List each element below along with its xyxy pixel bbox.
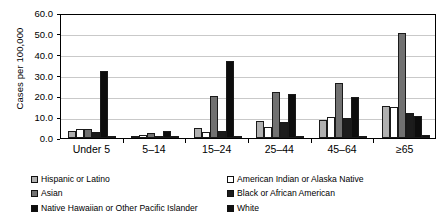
x-axis-tick-label: 45–64	[311, 143, 374, 156]
y-axis-tick-label: 40.0	[7, 51, 53, 61]
chart-legend: Hispanic or LatinoAsianNative Hawaiian o…	[31, 172, 431, 218]
y-axis-tick-label: 50.0	[7, 30, 53, 40]
bar	[406, 113, 414, 138]
bar-group	[374, 15, 437, 138]
bar	[108, 136, 116, 138]
bar-group-bars	[61, 15, 124, 138]
bar	[100, 71, 108, 138]
bar	[335, 83, 343, 138]
bar	[210, 96, 218, 138]
legend-swatch-icon	[31, 205, 38, 212]
legend-swatch-icon	[31, 176, 38, 183]
bar	[218, 131, 226, 138]
y-axis-tick-mark	[57, 139, 60, 140]
legend-item[interactable]: American Indian or Alaska Native	[227, 172, 364, 187]
y-axis-tick-mark	[57, 34, 60, 35]
bar	[327, 117, 335, 138]
legend-item[interactable]: Hispanic or Latino	[31, 172, 198, 187]
bar	[343, 118, 351, 138]
x-axis-tick-label: ≥65	[373, 143, 436, 156]
bar	[147, 133, 155, 138]
x-axis-tick-label: 25–44	[248, 143, 311, 156]
legend-item-label: Native Hawaiian or Other Pacific Islande…	[41, 204, 198, 213]
bar	[351, 97, 359, 138]
bar-group	[186, 15, 249, 138]
bar	[296, 136, 304, 138]
bar	[68, 131, 76, 138]
y-axis-tick-mark	[57, 76, 60, 77]
bar	[272, 92, 280, 138]
x-axis-tick-mark	[311, 139, 312, 143]
x-axis-tick-label: 5–14	[123, 143, 186, 156]
bar-group-bars	[124, 15, 187, 138]
legend-item[interactable]: White	[227, 201, 364, 216]
bar-group	[249, 15, 312, 138]
bar-chart-figure: Cases per 100,000 0.010.020.030.040.050.…	[0, 0, 441, 223]
legend-item[interactable]: Asian	[31, 187, 198, 202]
bar	[139, 135, 147, 138]
bar	[84, 129, 92, 138]
legend-item-label: Black or African American	[237, 189, 335, 198]
y-axis-tick-label: 30.0	[7, 72, 53, 82]
bar-group-bars	[374, 15, 437, 138]
x-axis-tick-mark	[185, 139, 186, 143]
y-axis-tick-mark	[57, 14, 60, 15]
x-axis-tick-labels: Under 55–1415–2425–4445–64≥65	[60, 143, 436, 159]
legend-item[interactable]: Native Hawaiian or Other Pacific Islande…	[31, 201, 198, 216]
legend-item-label: Hispanic or Latino	[41, 175, 110, 184]
x-axis-tick-mark	[373, 139, 374, 143]
bar	[155, 136, 163, 138]
bar	[359, 136, 367, 138]
bar	[163, 131, 171, 138]
bar	[171, 136, 179, 138]
bar	[414, 116, 422, 138]
bar-group	[124, 15, 187, 138]
y-axis-tick-label: 20.0	[7, 92, 53, 102]
x-axis-tick-label: 15–24	[185, 143, 248, 156]
legend-swatch-icon	[31, 190, 38, 197]
y-axis-tick-label: 0.0	[7, 134, 53, 144]
bar-group-bars	[249, 15, 312, 138]
y-axis-tick-mark	[57, 55, 60, 56]
bar	[194, 128, 202, 138]
legend-column-left: Hispanic or LatinoAsianNative Hawaiian o…	[31, 172, 198, 216]
legend-item[interactable]: Black or African American	[227, 187, 364, 202]
bar	[280, 122, 288, 138]
y-axis-tick-labels: 0.010.020.030.040.050.060.0	[7, 14, 53, 139]
x-axis-tick-label: Under 5	[60, 143, 123, 156]
bar	[288, 94, 296, 138]
x-axis-tick-mark	[248, 139, 249, 143]
bar	[234, 136, 242, 138]
y-axis-tick-mark	[57, 97, 60, 98]
bar	[390, 107, 398, 138]
bar-group-bars	[186, 15, 249, 138]
bar	[264, 127, 272, 138]
legend-item-label: Asian	[41, 189, 63, 198]
legend-item-label: American Indian or Alaska Native	[237, 175, 364, 184]
legend-swatch-icon	[227, 190, 234, 197]
y-axis-tick-mark	[57, 118, 60, 119]
bar-group	[312, 15, 375, 138]
legend-swatch-icon	[227, 176, 234, 183]
legend-column-right: American Indian or Alaska NativeBlack or…	[227, 172, 364, 216]
legend-item-label: White	[237, 204, 259, 213]
bar	[202, 132, 210, 138]
bar	[319, 120, 327, 138]
bar	[398, 33, 406, 138]
legend-swatch-icon	[227, 205, 234, 212]
bar	[131, 136, 139, 139]
bar-group	[61, 15, 124, 138]
bar-group-bars	[312, 15, 375, 138]
bar	[256, 121, 264, 138]
plot-area	[60, 14, 436, 139]
bar	[422, 135, 430, 138]
bar	[92, 132, 100, 138]
y-axis-tick-label: 10.0	[7, 113, 53, 123]
bar	[226, 61, 234, 138]
y-axis-tick-label: 60.0	[7, 9, 53, 19]
bar	[382, 106, 390, 138]
plot-inner	[61, 15, 435, 138]
bar	[76, 129, 84, 138]
x-axis-tick-mark	[123, 139, 124, 143]
